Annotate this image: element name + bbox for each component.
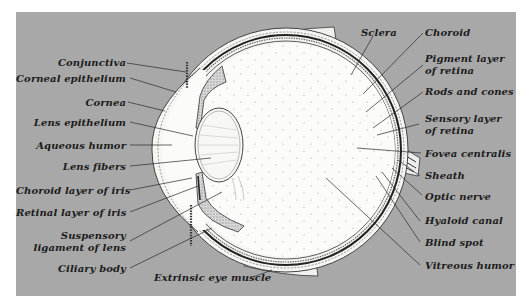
label-conjunctiva: Conjunctiva <box>20 57 126 68</box>
label-suspensory-line2: ligament of lens <box>16 242 126 253</box>
label-sensory-line2: of retina <box>425 125 502 136</box>
label-corneal-epithelium: Corneal epithelium <box>16 73 126 84</box>
label-suspensory-line1: Suspensory <box>16 230 126 241</box>
label-fovea-centralis: Fovea centralis <box>425 148 511 159</box>
label-retinal-layer-of-iris: Retinal layer of iris <box>16 207 126 218</box>
label-cornea: Cornea <box>20 97 126 108</box>
label-optic-nerve: Optic nerve <box>425 191 491 202</box>
label-choroid-layer-of-iris: Choroid layer of iris <box>16 185 126 196</box>
label-rods-and-cones: Rods and cones <box>425 86 514 97</box>
label-suspensory-ligament: Suspensory ligament of lens <box>16 230 126 253</box>
label-sclera: Sclera <box>361 27 397 38</box>
label-hyaloid-canal: Hyaloid canal <box>425 215 503 226</box>
label-extrinsic-eye-muscle: Extrinsic eye muscle <box>154 272 271 283</box>
label-pigment-layer-of-retina: Pigment layer of retina <box>425 53 505 76</box>
label-sensory-line1: Sensory layer <box>425 113 502 124</box>
label-choroid: Choroid <box>425 27 470 38</box>
label-ciliary-body: Ciliary body <box>20 263 126 274</box>
label-pigment-line1: Pigment layer <box>425 53 505 64</box>
label-vitreous-humor: Vitreous humor <box>425 260 514 271</box>
label-sheath: Sheath <box>425 170 465 181</box>
label-lens-epithelium: Lens epithelium <box>20 117 126 128</box>
label-sensory-layer-of-retina: Sensory layer of retina <box>425 113 502 136</box>
label-aqueous-humor: Aqueous humor <box>20 140 126 151</box>
label-pigment-line2: of retina <box>425 65 505 76</box>
label-blind-spot: Blind spot <box>425 237 484 248</box>
label-lens-fibers: Lens fibers <box>20 161 126 172</box>
